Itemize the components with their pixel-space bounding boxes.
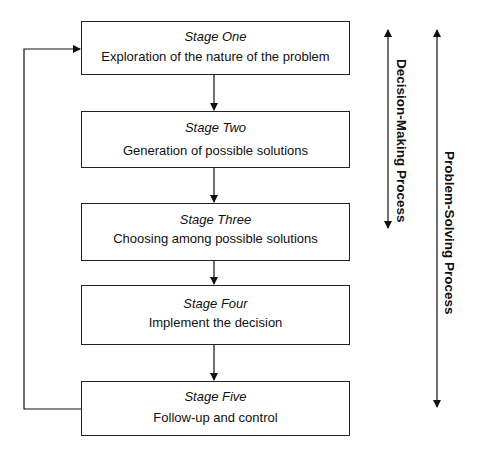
stage-three-box: Stage Three Choosing among possible solu… — [81, 203, 350, 261]
stage-description: Generation of possible solutions — [82, 143, 349, 158]
problem-solving-label: Problem-Solving Process — [442, 151, 457, 315]
stage-description: Choosing among possible solutions — [82, 231, 349, 246]
stage-label: Stage Four — [82, 296, 349, 311]
decision-making-label: Decision-Making Process — [394, 59, 409, 223]
stage-description: Follow-up and control — [82, 410, 349, 425]
stage-four-box: Stage Four Implement the decision — [81, 285, 350, 345]
stage-one-box: Stage One Exploration of the nature of t… — [81, 21, 350, 75]
stage-label: Stage Two — [82, 120, 349, 135]
stage-label: Stage Five — [82, 389, 349, 404]
stage-five-box: Stage Five Follow-up and control — [81, 381, 350, 436]
feedback-loop-arrow — [24, 49, 81, 409]
stage-description: Implement the decision — [82, 315, 349, 330]
stage-description: Exploration of the nature of the problem — [82, 49, 349, 64]
stage-label: Stage One — [82, 29, 349, 44]
stage-two-box: Stage Two Generation of possible solutio… — [81, 111, 350, 168]
stage-label: Stage Three — [82, 212, 349, 227]
